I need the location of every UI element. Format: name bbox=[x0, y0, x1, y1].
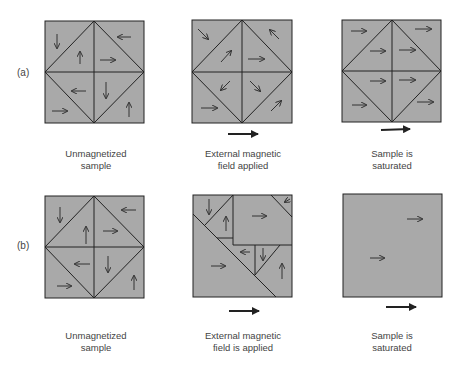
caption-b3: Sample is saturated bbox=[322, 330, 462, 354]
caption-line: sample bbox=[26, 160, 166, 172]
caption-a3: Sample is saturated bbox=[322, 148, 462, 172]
caption-line: saturated bbox=[322, 160, 462, 172]
caption-line: External magnetic bbox=[173, 148, 313, 160]
diagram-a-unmagnetized bbox=[0, 0, 468, 366]
caption-line: field is applied bbox=[173, 342, 313, 354]
caption-a2: External magnetic field applied bbox=[173, 148, 313, 172]
caption-line: Sample is bbox=[322, 330, 462, 342]
caption-b1: Unmagnetized sample bbox=[26, 330, 166, 354]
caption-line: field applied bbox=[173, 160, 313, 172]
caption-line: External magnetic bbox=[173, 330, 313, 342]
caption-a1: Unmagnetized sample bbox=[26, 148, 166, 172]
caption-line: sample bbox=[26, 342, 166, 354]
caption-line: Unmagnetized bbox=[26, 148, 166, 160]
caption-line: saturated bbox=[322, 342, 462, 354]
caption-b2: External magnetic field is applied bbox=[173, 330, 313, 354]
caption-line: Sample is bbox=[322, 148, 462, 160]
caption-line: Unmagnetized bbox=[26, 330, 166, 342]
